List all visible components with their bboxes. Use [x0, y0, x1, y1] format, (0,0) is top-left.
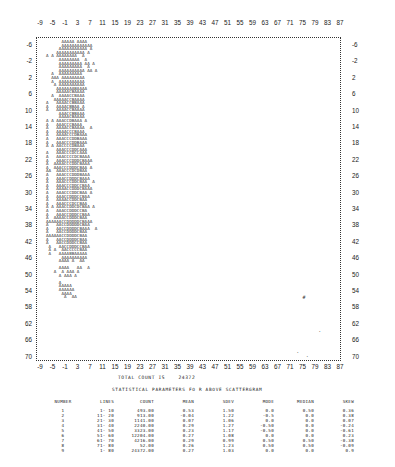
- x-tick-label: 63: [261, 363, 268, 370]
- stats-title: STATISTICAL PARAMETERS FO R ABOVE SCATTE…: [112, 387, 262, 392]
- x-tick-label: 39: [186, 363, 193, 370]
- x-tick-label: 63: [261, 19, 268, 26]
- outlier-point: .: [306, 352, 309, 358]
- x-tick-label: 55: [236, 19, 243, 26]
- x-tick-label: 51: [224, 19, 231, 26]
- x-tick-label: -5: [50, 19, 56, 26]
- x-tick-label: 87: [336, 19, 343, 26]
- x-tick-label: 71: [286, 363, 293, 370]
- y-tick-label: 50: [25, 270, 32, 277]
- y-tick-label: -6: [352, 41, 358, 48]
- x-tick-label: 19: [124, 19, 131, 26]
- scatter-density-area: AAAAA AAAA AAAAAAAAAAAA AAAAAAAAAAA A AA…: [40, 40, 340, 360]
- x-tick-label: 67: [274, 19, 281, 26]
- stats-column-header: SKEW: [314, 399, 354, 408]
- y-tick-label: 14: [25, 123, 32, 130]
- x-tick-label: 7: [88, 363, 92, 370]
- y-tick-label: 66: [352, 336, 359, 343]
- x-tick-label: 19: [124, 363, 131, 370]
- total-count-value: 24372: [179, 375, 196, 380]
- x-tick-label: 31: [161, 363, 168, 370]
- x-axis-top: -9-5-13711151923273135394347515559636771…: [38, 19, 338, 29]
- total-count: TOTAL COUNT IS 24372: [118, 375, 195, 380]
- y-tick-label: -6: [26, 41, 32, 48]
- stats-column-header: MODE: [234, 399, 274, 408]
- y-tick-label: 58: [352, 303, 359, 310]
- stats-cell: 0.0: [274, 448, 314, 453]
- x-tick-label: 35: [174, 363, 181, 370]
- y-tick-label: 14: [352, 123, 359, 130]
- y-tick-label: 22: [352, 155, 359, 162]
- x-tick-label: 83: [324, 19, 331, 26]
- y-tick-label: 38: [25, 221, 32, 228]
- y-tick-label: 34: [352, 205, 359, 212]
- y-tick-label: 34: [25, 205, 32, 212]
- y-tick-label: 50: [352, 270, 359, 277]
- x-tick-label: 23: [136, 19, 143, 26]
- y-tick-label: 2: [352, 73, 356, 80]
- x-tick-label: 3: [76, 363, 80, 370]
- x-tick-label: 23: [136, 363, 143, 370]
- stats-cell: 1- 80: [74, 448, 114, 453]
- stats-column-header: LINES: [74, 399, 114, 408]
- x-tick-label: 59: [249, 363, 256, 370]
- x-tick-label: 31: [161, 19, 168, 26]
- y-tick-label: 10: [25, 106, 32, 113]
- x-tick-label: 39: [186, 19, 193, 26]
- x-tick-label: 75: [299, 19, 306, 26]
- x-tick-label: -1: [62, 363, 68, 370]
- x-tick-label: 15: [111, 363, 118, 370]
- y-tick-label: 46: [25, 254, 32, 261]
- x-tick-label: -1: [62, 19, 68, 26]
- y-tick-label: 2: [28, 73, 32, 80]
- y-tick-label: 38: [352, 221, 359, 228]
- total-count-label: TOTAL COUNT IS: [118, 375, 165, 380]
- y-tick-label: 30: [25, 188, 32, 195]
- outlier-point: .: [318, 327, 321, 333]
- x-tick-label: 55: [236, 363, 243, 370]
- x-tick-label: 75: [299, 363, 306, 370]
- outlier-point: .: [315, 356, 318, 362]
- outlier-point: #: [303, 294, 306, 300]
- x-tick-label: 3: [76, 19, 80, 26]
- y-tick-label: 42: [352, 237, 359, 244]
- stats-header-row: NUMBERLINESCOUNTMEANSDEVMODEMEDIANSKEW: [52, 399, 354, 408]
- stats-column-header: MEDIAN: [274, 399, 314, 408]
- x-tick-label: 79: [311, 363, 318, 370]
- x-tick-label: 15: [111, 19, 118, 26]
- y-tick-label: 46: [352, 254, 359, 261]
- x-tick-label: -9: [37, 19, 43, 26]
- x-tick-label: 87: [336, 363, 343, 370]
- density-row: A AA: [46, 295, 340, 299]
- x-tick-label: 43: [199, 19, 206, 26]
- stats-cell: 0.9: [314, 448, 354, 453]
- y-tick-label: -2: [352, 57, 358, 64]
- y-axis-left: -6-22610141822263034384246505458626670: [16, 40, 32, 360]
- y-tick-label: 62: [352, 319, 359, 326]
- y-tick-label: 42: [25, 237, 32, 244]
- x-tick-label: 43: [199, 363, 206, 370]
- stats-row: 91- 8024372.000.271.030.00.00.9: [52, 448, 354, 453]
- stats-cell: 9: [52, 448, 74, 453]
- y-tick-label: 22: [25, 155, 32, 162]
- outlier-point: .: [296, 348, 299, 354]
- y-tick-label: 18: [25, 139, 32, 146]
- y-tick-label: 26: [25, 172, 32, 179]
- y-axis-right: -6-22610141822263034384246505458626670: [352, 40, 368, 360]
- x-axis-bottom: -9-5-13711151923273135394347515559636771…: [38, 363, 338, 373]
- y-tick-label: 54: [25, 287, 32, 294]
- stats-cell: 0.0: [234, 448, 274, 453]
- y-tick-label: 6: [352, 90, 356, 97]
- statistics-table: NUMBERLINESCOUNTMEANSDEVMODEMEDIANSKEW 1…: [52, 399, 354, 453]
- x-tick-label: 79: [311, 19, 318, 26]
- y-tick-label: 10: [352, 106, 359, 113]
- x-tick-label: 47: [211, 363, 218, 370]
- x-tick-label: 83: [324, 363, 331, 370]
- y-tick-label: 70: [25, 352, 32, 359]
- x-tick-label: 51: [224, 363, 231, 370]
- x-tick-label: 7: [88, 19, 92, 26]
- y-tick-label: 30: [352, 188, 359, 195]
- stats-column-header: NUMBER: [52, 399, 74, 408]
- x-tick-label: 27: [149, 363, 156, 370]
- stats-column-header: COUNT: [114, 399, 154, 408]
